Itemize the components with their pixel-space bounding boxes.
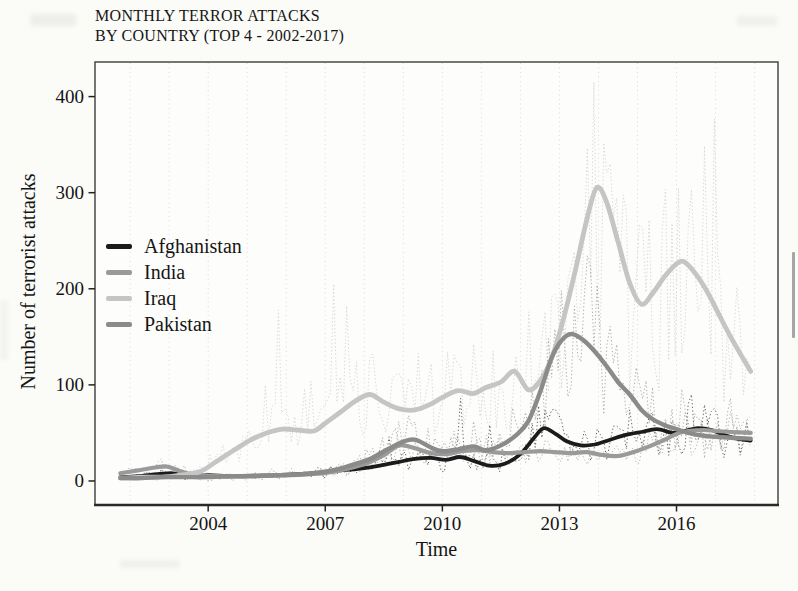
legend-item-india: India bbox=[106, 259, 242, 285]
legend-item-pakistan: Pakistan bbox=[106, 311, 242, 337]
x-tick-label: 2013 bbox=[540, 513, 578, 534]
scan-artifact bbox=[737, 16, 777, 26]
legend-swatch-afghanistan bbox=[106, 244, 132, 249]
legend-item-iraq: Iraq bbox=[106, 285, 242, 311]
legend-swatch-pakistan bbox=[106, 322, 132, 327]
legend-label-india: India bbox=[144, 261, 185, 284]
chart-title: MONTHLY TERROR ATTACKS BY COUNTRY (TOP 4… bbox=[95, 6, 344, 46]
chart-title-line1: MONTHLY TERROR ATTACKS bbox=[95, 6, 344, 26]
x-tick-label: 2010 bbox=[423, 513, 461, 534]
page-edge-mark bbox=[792, 252, 795, 338]
legend-swatch-india bbox=[106, 270, 132, 275]
legend: AfghanistanIndiaIraqPakistan bbox=[106, 233, 242, 337]
y-tick-label: 200 bbox=[56, 278, 85, 299]
scanned-chart-page: 010020030040020042007201020132016 MONTHL… bbox=[0, 0, 798, 591]
y-tick-label: 100 bbox=[56, 374, 85, 395]
x-axis-title: Time bbox=[95, 538, 778, 561]
scan-artifact bbox=[0, 300, 8, 360]
x-tick-label: 2016 bbox=[658, 513, 696, 534]
y-tick-label: 400 bbox=[56, 86, 85, 107]
legend-item-afghanistan: Afghanistan bbox=[106, 233, 242, 259]
legend-label-pakistan: Pakistan bbox=[144, 313, 212, 336]
y-tick-label: 300 bbox=[56, 182, 85, 203]
y-axis-title: Number of terrorist attacks bbox=[17, 132, 40, 432]
legend-label-iraq: Iraq bbox=[144, 287, 176, 310]
scan-artifact bbox=[120, 560, 180, 568]
y-tick-label: 0 bbox=[75, 470, 85, 491]
x-tick-label: 2004 bbox=[189, 513, 228, 534]
scan-artifact bbox=[30, 14, 76, 26]
legend-swatch-iraq bbox=[106, 296, 132, 301]
chart-title-line2: BY COUNTRY (TOP 4 - 2002-2017) bbox=[95, 26, 344, 46]
legend-label-afghanistan: Afghanistan bbox=[144, 235, 242, 258]
x-tick-label: 2007 bbox=[306, 513, 344, 534]
